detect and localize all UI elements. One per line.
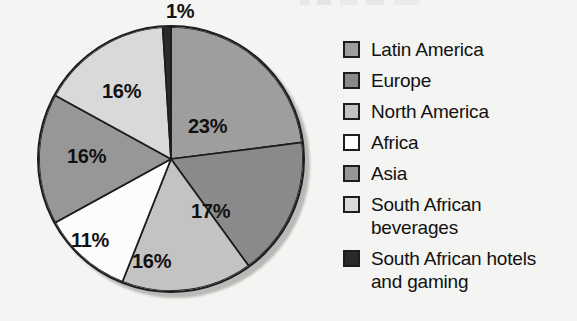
legend-label-south-african-beverages: South African xyxy=(371,194,481,215)
legend-item-asia[interactable]: Asia xyxy=(343,162,575,185)
legend-item-north-america[interactable]: North America xyxy=(343,100,575,123)
legend-label-latin-america: Latin America xyxy=(371,39,484,60)
pie-label-latin-america: 23% xyxy=(188,115,227,138)
legend-label-south-african-hotels-line2: and gaming xyxy=(371,270,536,293)
legend-item-south-african-beverages[interactable]: South African beverages xyxy=(343,193,575,239)
pie-label-europe: 17% xyxy=(191,200,230,223)
pie-label-africa: 11% xyxy=(71,229,109,252)
legend-item-africa[interactable]: Africa xyxy=(343,131,575,154)
pie-chart: 23% 17% 16% 11% 16% 16% 1% xyxy=(34,22,318,306)
legend-swatch-africa xyxy=(343,134,360,151)
cropped-title-remnant xyxy=(300,0,420,5)
pie-slice[interactable] xyxy=(171,27,302,159)
pie-label-south-african-beverages: 16% xyxy=(102,80,141,103)
legend-swatch-asia xyxy=(343,165,360,182)
legend-swatch-europe xyxy=(343,72,360,89)
pie-label-north-america: 16% xyxy=(132,250,171,273)
legend-label-africa: Africa xyxy=(371,132,418,153)
legend-label-south-african-beverages-line2: beverages xyxy=(371,216,481,239)
pie-label-asia: 16% xyxy=(67,145,106,168)
legend-swatch-latin-america xyxy=(343,41,360,58)
legend-item-south-african-hotels[interactable]: South African hotels and gaming xyxy=(343,247,575,293)
legend: Latin America Europe North America Afric… xyxy=(343,38,575,301)
legend-swatch-south-african-hotels xyxy=(343,250,360,267)
legend-item-europe[interactable]: Europe xyxy=(343,69,575,92)
legend-label-north-america: North America xyxy=(371,101,489,122)
pie-label-south-african-hotels: 1% xyxy=(166,0,194,23)
legend-item-latin-america[interactable]: Latin America xyxy=(343,38,575,61)
legend-label-europe: Europe xyxy=(371,70,431,91)
pie-chart-figure: 23% 17% 16% 11% 16% 16% 1% Latin America… xyxy=(0,0,577,321)
legend-swatch-south-african-beverages xyxy=(343,196,360,213)
legend-label-south-african-hotels: South African hotels xyxy=(371,248,536,269)
legend-label-asia: Asia xyxy=(371,163,407,184)
legend-swatch-north-america xyxy=(343,103,360,120)
